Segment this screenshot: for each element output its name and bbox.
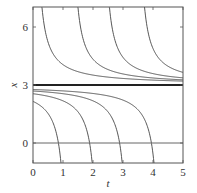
solution-curve-upper-2 xyxy=(78,7,184,80)
y-tick-label: 0 xyxy=(23,137,29,149)
x-tick-label: 2 xyxy=(90,166,96,178)
solution-curve-upper-1 xyxy=(42,7,184,81)
solution-curve-upper-4 xyxy=(145,7,184,72)
x-tick-label: 5 xyxy=(180,166,186,178)
x-tick-label: 3 xyxy=(120,166,126,178)
x-tick-label: 1 xyxy=(60,166,66,178)
chart: 012345 036 t x xyxy=(0,0,197,193)
x-tick-label: 4 xyxy=(150,166,156,178)
solution-curve-lower-2 xyxy=(33,94,93,163)
x-tick-label: 0 xyxy=(30,166,36,178)
y-axis-label: x xyxy=(7,82,19,88)
solution-curve-lower-1 xyxy=(33,101,61,163)
solution-curve-lower-3 xyxy=(33,91,123,163)
x-axis-label: t xyxy=(106,177,110,189)
solution-curve-lower-4 xyxy=(33,90,154,163)
y-tick-label: 6 xyxy=(23,21,29,33)
y-tick-label: 3 xyxy=(23,79,29,91)
